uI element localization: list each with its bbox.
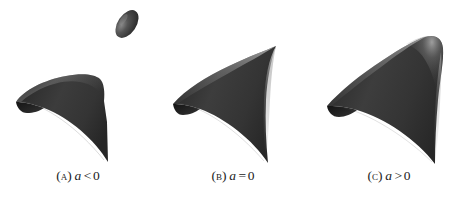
caption-panel-a: (A)a<0 — [0, 168, 156, 184]
panel-a-negative: (A)a<0 — [0, 0, 156, 200]
caption-variable-c: a — [383, 168, 393, 183]
surface-graphic-b — [155, 0, 311, 170]
caption-value-c: 0 — [404, 168, 411, 183]
surface-family-figure: (A)a<0 — [0, 0, 467, 200]
caption-relation-b: = — [237, 168, 248, 183]
surface-graphic-c — [311, 0, 467, 170]
caption-tag-c: (C) — [367, 168, 382, 183]
cone-sheet-a — [16, 74, 108, 162]
cusped-cone-sheet-b — [173, 46, 276, 163]
surface-graphic-a — [0, 0, 156, 170]
caption-relation-a: < — [82, 168, 93, 183]
panel-b-zero: (B)a=0 — [155, 0, 311, 200]
caption-variable-b: a — [227, 168, 237, 183]
smooth-sheet-c — [327, 36, 443, 164]
caption-value-a: 0 — [93, 168, 100, 183]
ellipsoid-component-a — [111, 6, 144, 42]
caption-tag-b: (B) — [211, 168, 226, 183]
panel-c-positive: (C)a>0 — [311, 0, 467, 200]
caption-variable-a: a — [72, 168, 82, 183]
caption-panel-b: (B)a=0 — [155, 168, 311, 184]
caption-tag-a: (A) — [56, 168, 72, 183]
caption-panel-c: (C)a>0 — [311, 168, 467, 184]
caption-relation-c: > — [393, 168, 404, 183]
caption-value-b: 0 — [248, 168, 255, 183]
